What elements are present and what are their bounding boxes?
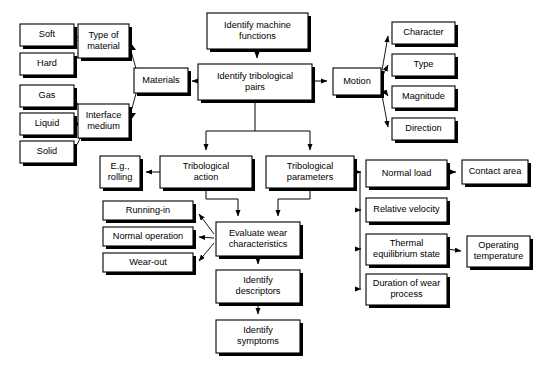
node-label: Gas: [39, 90, 56, 100]
node-mtype[interactable]: Type: [392, 54, 458, 79]
node-label: Type: [414, 59, 434, 69]
node-label: Hard: [37, 58, 57, 68]
node-magnitude[interactable]: Magnitude: [392, 86, 458, 111]
node-gas[interactable]: Gas: [20, 85, 77, 110]
node-hard[interactable]: Hard: [20, 53, 77, 78]
edge-trib-pairs-split-bus: [206, 100, 310, 131]
node-label: Relative velocity: [373, 204, 440, 214]
node-identify_desc[interactable]: Identifydescriptors: [216, 270, 303, 306]
node-label: Character: [403, 27, 443, 37]
node-eval_wear[interactable]: Evaluate wearcharacteristics: [216, 222, 303, 259]
node-machine_fn[interactable]: Identify machinefunctions: [207, 13, 311, 52]
node-duration_wear[interactable]: Duration of wearprocess: [366, 274, 450, 308]
edge-eval-wear-to-normal-operation: [199, 237, 214, 238]
node-label: Tribologicalparameters: [287, 161, 334, 182]
node-normal_load[interactable]: Normal load: [366, 160, 450, 190]
node-soft[interactable]: Soft: [20, 24, 77, 49]
node-trib_action[interactable]: Tribologicalaction: [160, 156, 255, 191]
node-label: Evaluate wearcharacteristics: [229, 228, 288, 249]
node-label: Contact area: [469, 166, 522, 176]
node-label: Soft: [39, 29, 56, 39]
node-label: Wear-out: [129, 257, 167, 267]
node-trib_pairs[interactable]: Identify tribologicalpairs: [198, 64, 315, 103]
node-label: Interfacemedium: [86, 110, 122, 131]
edge-eval-wear-to-wear-out: [199, 243, 214, 261]
node-character[interactable]: Character: [392, 22, 458, 47]
node-label: Running-in: [126, 205, 170, 215]
node-running_in[interactable]: Running-in: [103, 201, 196, 223]
node-label: Direction: [405, 123, 441, 133]
node-label: Magnitude: [402, 91, 445, 101]
edge-eval-wear-to-running-in: [199, 214, 214, 234]
node-label: Normal operation: [113, 231, 183, 241]
node-thermal_eq[interactable]: Thermalequilibrium state: [366, 234, 450, 268]
node-materials[interactable]: Materials: [134, 68, 191, 96]
node-trib_params[interactable]: Tribologicalparameters: [266, 156, 357, 191]
node-type_material[interactable]: Type ofmaterial: [78, 24, 132, 61]
node-identify_sym[interactable]: Identifysymptoms: [216, 320, 303, 356]
node-label: Motion: [343, 76, 371, 86]
node-rel_velocity[interactable]: Relative velocity: [366, 198, 450, 225]
node-liquid[interactable]: Liquid: [20, 113, 77, 138]
node-direction[interactable]: Direction: [392, 118, 458, 143]
node-motion[interactable]: Motion: [333, 68, 384, 98]
node-interface_med[interactable]: Interfacemedium: [78, 104, 132, 141]
node-solid[interactable]: Solid: [20, 141, 77, 166]
node-label: Solid: [37, 146, 57, 156]
edge-motion-to-character: [381, 36, 388, 76]
node-label: Operatingtemperature: [474, 240, 524, 261]
edge-trib-action-to-eval-wear: [206, 188, 238, 216]
flowchart-canvas: SoftHardGasLiquidSolidType ofmaterialInt…: [0, 0, 549, 376]
node-layer: SoftHardGasLiquidSolidType ofmaterialInt…: [20, 13, 533, 356]
node-wear_out[interactable]: Wear-out: [103, 253, 196, 275]
node-label: Liquid: [35, 118, 60, 128]
node-contact_area[interactable]: Contact area: [462, 160, 531, 187]
node-label: E.g.,rolling: [108, 161, 133, 182]
node-label: Normal load: [382, 168, 432, 178]
node-eg_rolling[interactable]: E.g.,rolling: [100, 156, 143, 191]
node-label: Type ofmaterial: [87, 30, 120, 51]
node-label: Materials: [142, 75, 180, 85]
edge-trib-params-to-eval-wear: [278, 188, 310, 216]
node-normal_op[interactable]: Normal operation: [103, 227, 196, 249]
node-operating_temp[interactable]: Operatingtemperature: [467, 236, 533, 270]
